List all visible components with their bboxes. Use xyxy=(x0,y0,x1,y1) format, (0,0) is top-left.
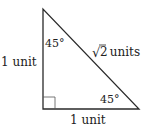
triangle-shape xyxy=(43,9,139,109)
hypotenuse-label: √ 2 units xyxy=(92,45,140,60)
bottom-side-label: 1 unit xyxy=(70,113,106,127)
right-angle-marker xyxy=(43,97,55,109)
bottom-angle-label: 45° xyxy=(100,93,120,106)
hypotenuse-unit: units xyxy=(106,45,140,59)
top-angle-label: 45° xyxy=(45,37,65,50)
triangle-diagram: 45° 45° 1 unit 1 unit √ 2 units xyxy=(0,0,152,132)
left-side-label: 1 unit xyxy=(1,55,37,69)
